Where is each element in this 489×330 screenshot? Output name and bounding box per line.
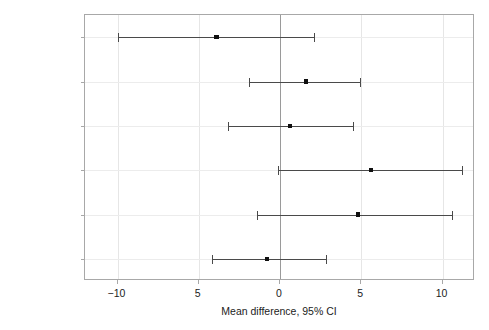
ci-upper-cap bbox=[360, 78, 361, 87]
x-axis-tick bbox=[360, 280, 361, 284]
x-axis-tick-label: 10 bbox=[436, 287, 448, 299]
x-axis-tick bbox=[198, 280, 199, 284]
x-axis-tick bbox=[279, 280, 280, 284]
plot-area bbox=[84, 14, 474, 280]
ci-lower-cap bbox=[228, 122, 229, 131]
estimate-marker[interactable] bbox=[288, 124, 293, 129]
estimate-marker[interactable] bbox=[214, 35, 219, 40]
y-axis-tick bbox=[81, 126, 85, 127]
forest-plot-figure: omni-insectiomni-herbiomni-carniinsecti-… bbox=[0, 0, 489, 330]
x-axis-tick-label: −10 bbox=[108, 287, 126, 299]
vertical-gridline bbox=[443, 15, 444, 279]
x-axis-tick-label: 0 bbox=[276, 287, 282, 299]
x-axis-tick-label: 5 bbox=[195, 287, 201, 299]
y-axis-tick bbox=[81, 215, 85, 216]
ci-lower-cap bbox=[118, 33, 119, 42]
ci-upper-cap bbox=[314, 33, 315, 42]
ci-lower-cap bbox=[212, 255, 213, 264]
ci-upper-cap bbox=[353, 122, 354, 131]
x-axis-title: Mean difference, 95% CI bbox=[221, 305, 336, 317]
estimate-marker[interactable] bbox=[304, 79, 309, 84]
ci-upper-cap bbox=[326, 255, 327, 264]
vertical-gridline bbox=[118, 15, 119, 279]
estimate-marker[interactable] bbox=[265, 257, 270, 262]
x-axis-tick bbox=[117, 280, 118, 284]
y-axis-tick bbox=[81, 82, 85, 83]
ci-lower-cap bbox=[249, 78, 250, 87]
ci-upper-cap bbox=[462, 166, 463, 175]
vertical-gridline bbox=[361, 15, 362, 279]
ci-upper-cap bbox=[452, 211, 453, 220]
vertical-gridline bbox=[199, 15, 200, 279]
ci-lower-cap bbox=[278, 166, 279, 175]
ci-lower-cap bbox=[257, 211, 258, 220]
estimate-marker[interactable] bbox=[356, 212, 361, 217]
confidence-interval-line bbox=[257, 215, 452, 216]
x-axis-tick bbox=[442, 280, 443, 284]
y-axis-tick bbox=[81, 259, 85, 260]
x-axis-tick-label: 5 bbox=[357, 287, 363, 299]
zero-reference-line bbox=[280, 15, 281, 279]
y-axis-tick bbox=[81, 37, 85, 38]
y-axis-tick bbox=[81, 170, 85, 171]
estimate-marker[interactable] bbox=[369, 168, 374, 173]
